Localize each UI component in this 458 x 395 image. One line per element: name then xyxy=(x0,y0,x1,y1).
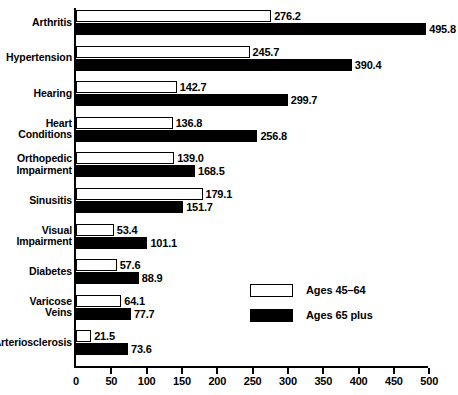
bar-group: Heart Conditions136.8256.8 xyxy=(0,117,458,142)
x-tick-label: 350 xyxy=(314,375,332,387)
legend-label: Ages 65 plus xyxy=(306,308,373,323)
x-tick xyxy=(146,368,148,374)
bar-group: Varicose Veins64.177.7 xyxy=(0,295,458,320)
category-label: Hypertension xyxy=(0,52,72,64)
bar-dark xyxy=(76,201,183,213)
bar-light xyxy=(76,224,114,236)
bar-row: 168.5 xyxy=(76,165,255,177)
bar-row: 151.7 xyxy=(76,201,243,213)
legend-swatch-light xyxy=(250,284,293,297)
bar-group: Arthritis276.2495.8 xyxy=(0,10,458,35)
bar-row: 88.9 xyxy=(76,272,199,284)
x-tick xyxy=(358,368,360,374)
category-label: Orthopedic Impairment xyxy=(0,153,72,176)
x-tick-label: 450 xyxy=(385,375,403,387)
bar-dark xyxy=(76,237,147,249)
x-tick-label: 500 xyxy=(420,375,438,387)
bar-dark xyxy=(76,94,288,106)
bar-value-label: 151.7 xyxy=(183,201,213,213)
bar-row: 64.1 xyxy=(76,295,181,307)
bar-value-label: 495.8 xyxy=(426,23,456,35)
bar-row: 179.1 xyxy=(76,188,263,200)
x-tick xyxy=(181,368,183,374)
legend-label: Ages 45–64 xyxy=(306,283,366,298)
bar-value-label: 88.9 xyxy=(139,272,163,284)
bar-value-label: 179.1 xyxy=(203,188,233,200)
bar-dark xyxy=(76,165,195,177)
category-label: Visual Impairment xyxy=(0,225,72,248)
x-tick xyxy=(287,368,289,374)
category-label: Arthritis xyxy=(0,17,72,29)
bar-light xyxy=(76,330,91,342)
bar-light xyxy=(76,152,174,164)
bar-value-label: 139.0 xyxy=(174,152,204,164)
bar-row: 53.4 xyxy=(76,224,174,236)
category-label: Varicose Veins xyxy=(0,296,72,319)
bar-dark xyxy=(76,308,131,320)
x-tick xyxy=(428,368,430,374)
category-label: Sinusitis xyxy=(0,195,72,207)
bar-group: Arteriosclerosis21.573.6 xyxy=(0,330,458,355)
bar-light xyxy=(76,259,117,271)
x-tick-label: 100 xyxy=(138,375,156,387)
bar-dark xyxy=(76,130,257,142)
x-tick-label: 250 xyxy=(244,375,262,387)
category-label: Diabetes xyxy=(0,266,72,278)
bar-light xyxy=(76,117,173,129)
bar-row: 77.7 xyxy=(76,308,191,320)
bar-group: Hearing142.7299.7 xyxy=(0,81,458,106)
bar-value-label: 73.6 xyxy=(128,343,152,355)
bar-row: 276.2 xyxy=(76,10,331,22)
bar-value-label: 245.7 xyxy=(250,46,280,58)
bar-value-label: 299.7 xyxy=(288,94,318,106)
x-tick xyxy=(393,368,395,374)
bar-group: Diabetes57.688.9 xyxy=(0,259,458,284)
bar-row: 21.5 xyxy=(76,330,151,342)
bar-row: 256.8 xyxy=(76,130,317,142)
bar-value-label: 57.6 xyxy=(117,259,141,271)
legend-swatch-dark xyxy=(250,309,293,322)
bar-light xyxy=(76,188,203,200)
bar-value-label: 142.7 xyxy=(177,81,207,93)
bar-row: 142.7 xyxy=(76,81,237,93)
x-tick-label: 200 xyxy=(208,375,226,387)
bar-value-label: 390.4 xyxy=(352,59,382,71)
bar-dark xyxy=(76,272,139,284)
category-label: Heart Conditions xyxy=(0,118,72,141)
bar-value-label: 136.8 xyxy=(173,117,203,129)
bar-value-label: 256.8 xyxy=(257,130,287,142)
bar-chart: Arthritis276.2495.8Hypertension245.7390.… xyxy=(0,0,458,395)
bar-value-label: 101.1 xyxy=(147,237,177,249)
bar-light xyxy=(76,295,121,307)
x-tick-label: 50 xyxy=(105,375,117,387)
bar-row: 139.0 xyxy=(76,152,234,164)
x-tick xyxy=(110,368,112,374)
bar-row: 495.8 xyxy=(76,23,458,35)
bar-value-label: 276.2 xyxy=(271,10,301,22)
bar-dark xyxy=(76,343,128,355)
bar-row: 390.4 xyxy=(76,59,412,71)
x-tick-label: 400 xyxy=(350,375,368,387)
bar-value-label: 21.5 xyxy=(91,330,115,342)
bar-row: 245.7 xyxy=(76,46,310,58)
bar-dark xyxy=(76,59,352,71)
bar-group: Sinusitis179.1151.7 xyxy=(0,188,458,213)
x-tick-label: 0 xyxy=(73,375,79,387)
x-tick-label: 300 xyxy=(279,375,297,387)
bar-value-label: 53.4 xyxy=(114,224,138,236)
bar-value-label: 64.1 xyxy=(121,295,145,307)
x-tick-label: 150 xyxy=(173,375,191,387)
bar-light xyxy=(76,10,271,22)
category-label: Arteriosclerosis xyxy=(0,337,72,349)
bar-group: Visual Impairment53.4101.1 xyxy=(0,224,458,249)
x-tick xyxy=(252,368,254,374)
x-tick xyxy=(322,368,324,374)
category-label: Hearing xyxy=(0,88,72,100)
bar-row: 101.1 xyxy=(76,237,207,249)
bar-value-label: 168.5 xyxy=(195,165,225,177)
bar-row: 57.6 xyxy=(76,259,177,271)
bar-row: 136.8 xyxy=(76,117,233,129)
bar-group: Hypertension245.7390.4 xyxy=(0,46,458,71)
bar-value-label: 77.7 xyxy=(131,308,155,320)
bar-light xyxy=(76,81,177,93)
